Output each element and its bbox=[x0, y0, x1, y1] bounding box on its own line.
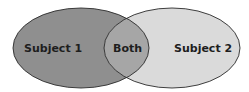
subject-2-label: Subject 2 bbox=[174, 42, 232, 55]
venn-diagram: Subject 1 Both Subject 2 bbox=[0, 0, 249, 92]
both-label: Both bbox=[113, 42, 142, 55]
subject-1-label: Subject 1 bbox=[24, 42, 82, 55]
